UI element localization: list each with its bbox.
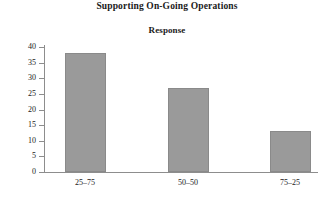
y-tick-mark <box>39 94 44 95</box>
y-axis-line <box>44 45 45 173</box>
y-tick-mark <box>39 156 44 157</box>
y-tick-mark <box>39 110 44 111</box>
y-tick-label: 35 <box>6 59 36 67</box>
y-tick-label: 30 <box>6 74 36 82</box>
plot-area: 0510152025303540 25–7550–5075–25 <box>0 0 334 202</box>
bar <box>270 131 311 172</box>
y-tick-label: 5 <box>6 152 36 160</box>
bar <box>168 88 209 172</box>
y-tick-mark <box>39 172 44 173</box>
y-tick-mark <box>39 125 44 126</box>
y-tick-label: 10 <box>6 137 36 145</box>
y-tick-label: 40 <box>6 43 36 51</box>
x-tick-label: 75–25 <box>250 178 330 187</box>
x-tick-label: 50–50 <box>148 178 228 187</box>
x-axis-line <box>44 172 318 173</box>
y-tick-mark <box>39 63 44 64</box>
y-tick-label: 20 <box>6 106 36 114</box>
y-tick-mark <box>39 47 44 48</box>
y-tick-label: 15 <box>6 121 36 129</box>
y-tick-label: 25 <box>6 90 36 98</box>
chart-figure: Supporting On-Going Operations Response … <box>0 0 334 202</box>
x-tick-label: 25–75 <box>45 178 125 187</box>
y-tick-label: 0 <box>6 168 36 176</box>
bar <box>65 53 106 172</box>
y-tick-mark <box>39 141 44 142</box>
y-tick-mark <box>39 78 44 79</box>
